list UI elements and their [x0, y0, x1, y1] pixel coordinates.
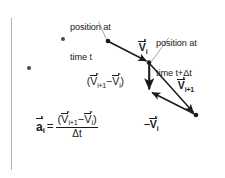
- symbol-v: V: [150, 119, 157, 130]
- subscript-i: i: [119, 82, 120, 89]
- symbol-v: V: [178, 80, 185, 91]
- vector-arrow-accent-a: a: [36, 119, 43, 134]
- equation-fraction: (Vi+1−Vi) Δt: [56, 113, 97, 139]
- equation-numerator: (Vi+1−Vi): [56, 113, 97, 128]
- subscript-i: i: [43, 126, 45, 135]
- label-velocity-difference: (Vi+1−Vi): [75, 64, 124, 99]
- label-vector-minus-v-i: −Vi: [132, 107, 159, 142]
- vector-arrow-accent-v-i-plus-1: V: [178, 79, 185, 91]
- callout-position-at-time-t-plus-dt-line1: position at: [156, 39, 197, 49]
- equals-sign: =: [47, 120, 54, 132]
- subscript-i-plus-1: i+1: [97, 82, 106, 89]
- paren-close: ): [121, 75, 125, 87]
- stray-dot-upper: [61, 37, 65, 41]
- label-vector-v-i: Vi: [127, 30, 147, 65]
- acceleration-equation: ai = (Vi+1−Vi) Δt: [36, 113, 98, 139]
- vector-diagram-figure: position at time t position at time t+Δt…: [0, 0, 225, 178]
- equation-lhs: ai: [36, 119, 45, 134]
- symbol-v: V: [139, 42, 146, 53]
- subscript-i-plus-1: i+1: [185, 86, 194, 93]
- vector-arrow-accent-minus-v-i: V: [150, 118, 157, 130]
- callout-position-at-time-t-line2: time t: [70, 53, 111, 63]
- label-vector-v-i-plus-1: Vi+1: [166, 68, 194, 103]
- paren-close: ): [93, 113, 97, 125]
- subscript-i-plus-1: i+1: [68, 118, 77, 127]
- stray-dot-left: [27, 66, 31, 70]
- subscript-i: i: [91, 118, 92, 127]
- equation-denominator: Δt: [72, 128, 81, 140]
- symbol-a: a: [36, 120, 43, 134]
- vector-arrow-accent-v-i: V: [139, 41, 146, 53]
- callout-position-at-time-t-line1: position at: [70, 23, 111, 33]
- subscript-i: i: [157, 125, 159, 132]
- subscript-i: i: [146, 48, 148, 55]
